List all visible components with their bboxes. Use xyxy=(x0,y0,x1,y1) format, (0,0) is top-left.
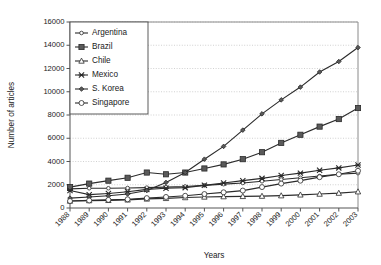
legend-label: Mexico xyxy=(92,70,118,79)
x-tick-label: 2002 xyxy=(322,210,340,228)
data-point-marker xyxy=(279,140,284,145)
legend-label: Brazil xyxy=(92,42,113,51)
x-tick-label: 1991 xyxy=(111,210,129,228)
data-point-marker xyxy=(202,192,207,197)
data-point-marker xyxy=(260,185,265,190)
data-point-marker xyxy=(240,188,245,193)
x-tick-label: 1989 xyxy=(72,210,90,228)
data-point-marker xyxy=(87,198,92,203)
x-tick-label: 1990 xyxy=(91,210,109,228)
series-line xyxy=(70,173,358,189)
y-tick-label: 6000 xyxy=(48,133,65,142)
x-tick-label: 1999 xyxy=(264,210,282,228)
legend-marker-icon xyxy=(79,44,84,49)
data-point-marker xyxy=(279,181,284,186)
y-tick-label: 10000 xyxy=(43,87,64,96)
data-point-marker xyxy=(336,116,341,121)
x-tick-label: 1996 xyxy=(207,210,225,228)
series-line xyxy=(70,108,358,187)
data-point-marker xyxy=(336,172,341,177)
data-point-marker xyxy=(317,175,322,180)
data-point-marker xyxy=(221,162,226,167)
legend-marker-icon xyxy=(79,101,84,106)
data-point-marker xyxy=(164,180,169,185)
data-point-marker xyxy=(87,181,92,186)
data-point-marker xyxy=(356,168,361,173)
data-point-marker xyxy=(125,197,130,202)
x-tick-label: 2000 xyxy=(283,210,301,228)
series-singapore xyxy=(68,168,361,203)
data-point-marker xyxy=(87,186,91,190)
y-tick-label: 12000 xyxy=(43,64,64,73)
data-point-marker xyxy=(183,193,188,198)
x-tick-label: 1992 xyxy=(130,210,148,228)
data-point-marker xyxy=(202,166,207,171)
chart-legend: ArgentinaBrazilChileMexicoS. KoreaSingap… xyxy=(70,22,148,114)
legend-label: Argentina xyxy=(92,28,127,37)
x-tick-label: 1994 xyxy=(168,210,186,228)
x-tick-label: 1997 xyxy=(226,210,244,228)
data-point-marker xyxy=(68,199,73,204)
data-point-marker xyxy=(336,165,342,170)
data-point-marker xyxy=(317,168,323,173)
data-point-marker xyxy=(164,194,169,199)
series-argentina xyxy=(68,171,360,190)
data-point-marker xyxy=(106,197,111,202)
y-tick-label: 16000 xyxy=(43,17,64,26)
data-point-marker xyxy=(355,105,360,110)
data-point-marker xyxy=(125,175,130,180)
data-point-marker xyxy=(106,178,111,183)
legend-label: S. Korea xyxy=(92,84,124,93)
line-chart: 0200040006000800010000120001400016000198… xyxy=(0,0,381,265)
data-point-marker xyxy=(126,186,130,190)
data-point-marker xyxy=(240,157,245,162)
x-axis-title: Years xyxy=(204,251,225,260)
data-point-marker xyxy=(259,150,264,155)
data-point-marker xyxy=(221,190,226,195)
x-tick-label: 1993 xyxy=(149,210,167,228)
y-tick-label: 14000 xyxy=(43,40,64,49)
series-brazil xyxy=(67,105,360,189)
x-tick-label: 1988 xyxy=(53,210,71,228)
x-tick-label: 1998 xyxy=(245,210,263,228)
data-point-marker xyxy=(144,196,149,201)
x-tick-label: 2001 xyxy=(303,210,321,228)
y-tick-label: 4000 xyxy=(48,157,65,166)
legend-label: Chile xyxy=(92,56,111,65)
data-point-marker xyxy=(317,124,322,129)
y-axis-title: Number of articles xyxy=(7,82,16,148)
legend-marker-icon xyxy=(80,31,84,35)
x-tick-label: 1995 xyxy=(187,210,205,228)
y-tick-label: 8000 xyxy=(48,110,65,119)
data-point-marker xyxy=(107,186,111,190)
legend-label: Singapore xyxy=(92,98,130,107)
data-point-marker xyxy=(297,171,303,176)
data-point-marker xyxy=(298,132,303,137)
data-point-marker xyxy=(278,173,284,178)
data-point-marker xyxy=(144,170,149,175)
data-point-marker xyxy=(298,178,303,183)
data-point-marker xyxy=(163,172,168,177)
chart-figure: 0200040006000800010000120001400016000198… xyxy=(0,0,381,265)
x-tick-label: 2003 xyxy=(341,210,359,228)
y-tick-label: 2000 xyxy=(48,180,65,189)
